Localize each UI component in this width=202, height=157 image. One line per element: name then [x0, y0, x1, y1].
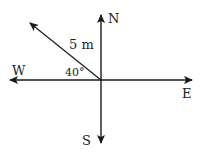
angle-label: 40° — [65, 66, 85, 79]
magnitude-label: 5 m — [69, 37, 94, 52]
west-label: W — [12, 63, 26, 78]
north-label: N — [108, 11, 119, 26]
compass-diagram: N S W E 5 m 40° — [0, 0, 202, 157]
south-label: S — [82, 133, 91, 148]
east-label: E — [182, 86, 192, 101]
